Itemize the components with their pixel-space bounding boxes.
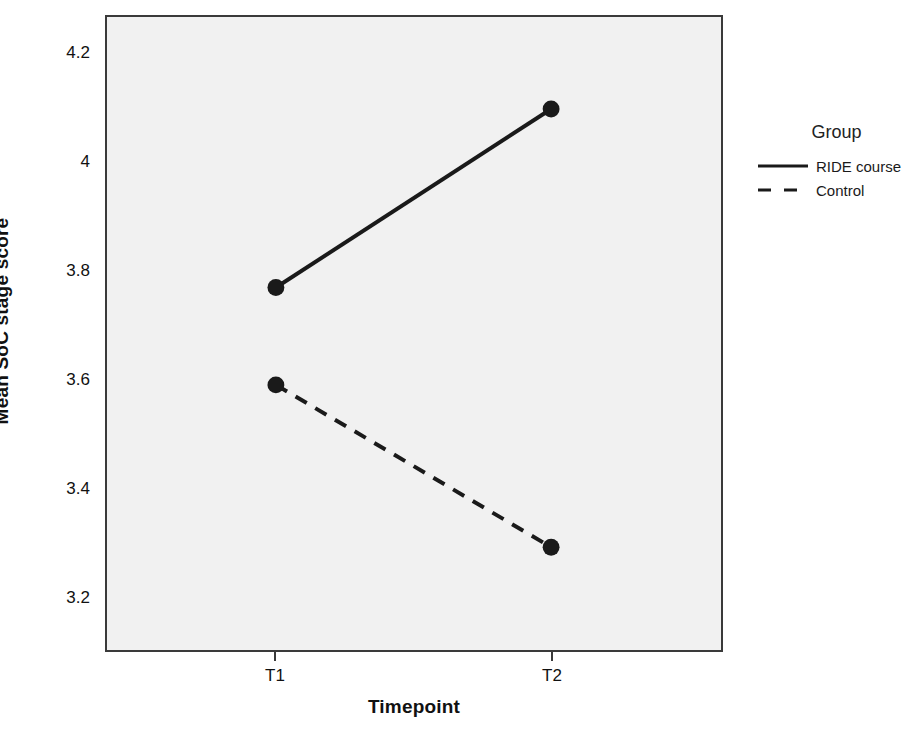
- legend-item[interactable]: RIDE course: [757, 155, 922, 177]
- data-point-marker: [543, 101, 560, 118]
- plot-canvas: [107, 17, 721, 650]
- y-axis-tick-label: 3.6: [30, 370, 90, 390]
- x-axis-tick-label: T2: [512, 666, 592, 686]
- chart-figure: Mean SoC stage score 4.243.83.63.43.2 T1…: [0, 0, 922, 733]
- y-axis-tick-label: 3.8: [30, 261, 90, 281]
- data-point-marker: [267, 376, 284, 393]
- legend: Group RIDE courseControl: [757, 122, 922, 203]
- plot-area: [105, 15, 723, 652]
- legend-entries: RIDE courseControl: [757, 155, 922, 201]
- series-line-ride-course: [276, 109, 551, 288]
- x-axis-tick-label: T1: [235, 666, 315, 686]
- legend-item-label: RIDE course: [816, 158, 901, 175]
- y-axis-title: Mean SoC stage score: [0, 111, 13, 531]
- x-axis-tick-mark: [274, 652, 276, 661]
- x-axis-tick-mark: [551, 652, 553, 661]
- legend-item-label: Control: [816, 182, 864, 199]
- legend-line-swatch-solid: [757, 160, 809, 172]
- legend-title: Group: [757, 122, 922, 143]
- legend-item[interactable]: Control: [757, 179, 922, 201]
- y-axis-tick-label: 4: [30, 152, 90, 172]
- x-axis-title: Timepoint: [105, 696, 723, 718]
- y-axis-tick-label: 3.2: [30, 588, 90, 608]
- data-point-marker: [543, 539, 560, 556]
- y-axis-tick-label: 4.2: [30, 43, 90, 63]
- y-axis-tick-group: 4.243.83.63.43.2: [30, 0, 90, 733]
- legend-line-swatch-dashed: [757, 184, 809, 196]
- data-point-marker: [267, 279, 284, 296]
- y-axis-tick-label: 3.4: [30, 479, 90, 499]
- series-line-control: [276, 385, 551, 547]
